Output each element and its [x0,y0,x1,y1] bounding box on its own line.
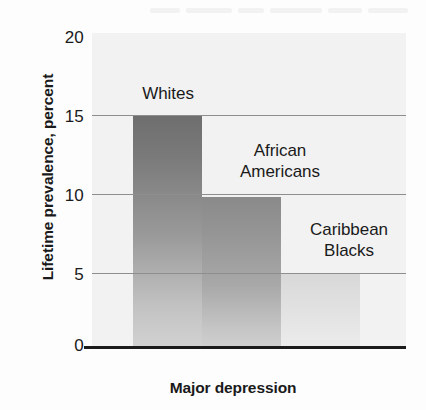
bar-label-caribbean-blacks: Caribbean Blacks [284,219,414,261]
y-tick-label-20: 20 [44,28,84,48]
y-tick-label-10: 10 [44,186,84,206]
plot-area: Whites African Americans Caribbean Black… [92,33,406,348]
gridline-15 [92,115,406,116]
chart-figure: Lifetime prevalence, percent 20 15 10 5 … [0,0,426,410]
gridline-5 [92,273,406,274]
bar-whites [133,115,202,348]
bar-caribbean-blacks [281,274,360,348]
bar-label-whites: Whites [118,83,218,104]
y-tick-label-15: 15 [44,107,84,127]
y-tick-label-5: 5 [44,265,84,285]
x-axis-baseline [84,346,406,349]
x-axis-title: Major depression [60,379,406,397]
y-tick-label-0: 0 [44,336,84,356]
gridline-10 [92,194,406,195]
bar-label-african-americans: African Americans [205,140,355,182]
